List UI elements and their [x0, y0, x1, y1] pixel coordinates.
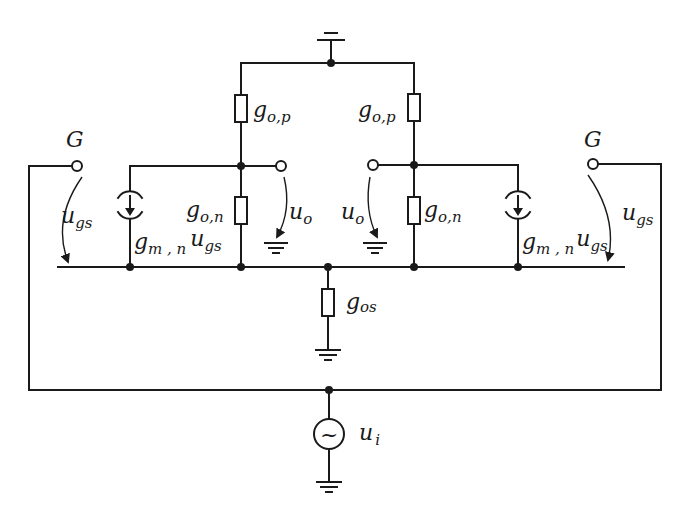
resistor-gon-left — [235, 197, 247, 224]
ugs-label-left: ugs — [61, 203, 93, 232]
uo-left-arrow — [277, 177, 287, 237]
ac-symbol: ~ — [320, 422, 338, 447]
resistor-gop-right — [408, 94, 420, 121]
top-wire — [241, 63, 414, 95]
top-node — [327, 59, 335, 67]
circuit-diagram: ~ G G ugs ugs go,p go,p go,n go,n uo uo … — [0, 0, 681, 518]
uo-right-arrow — [368, 177, 377, 237]
right-drain-wire — [378, 165, 518, 190]
uo-label-left: uo — [289, 199, 312, 228]
gon-label-right: go,n — [424, 197, 462, 226]
input-wire — [29, 164, 661, 390]
uo-label-right: uo — [341, 199, 364, 228]
gos-label: gos — [346, 289, 377, 316]
gate-terminal-right — [588, 159, 598, 169]
gon-label-left: go,n — [186, 197, 224, 226]
ground-uo-right-icon — [364, 243, 386, 253]
left-drain-wire — [130, 166, 276, 190]
gm-label-left: gm , nugs — [134, 226, 222, 258]
gop-label-left: go,p — [253, 97, 291, 126]
ui-label: ui — [359, 420, 380, 449]
resistor-gop-left — [235, 95, 247, 122]
ground-uo-left-icon — [265, 243, 287, 253]
resistor-gon-right — [408, 197, 420, 224]
output-terminal-right — [368, 160, 378, 170]
output-terminal-left — [276, 161, 286, 171]
gop-label-right: go,p — [358, 97, 396, 126]
ugs-label-right: ugs — [622, 200, 654, 229]
gate-terminal-left — [72, 161, 82, 171]
gate-label-right: G — [584, 127, 602, 152]
resistor-gos — [322, 289, 334, 316]
ground-source-icon — [317, 482, 341, 492]
ground-gos-icon — [316, 350, 340, 360]
gm-label-right: gm , nugs — [522, 226, 608, 258]
top-ground-icon — [318, 33, 344, 63]
gate-label-left: G — [66, 127, 84, 152]
